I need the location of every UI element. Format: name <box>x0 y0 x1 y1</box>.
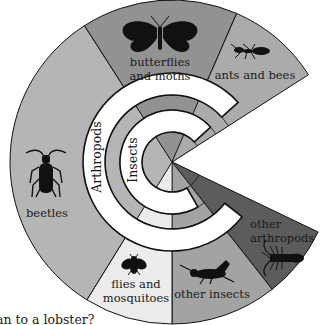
label-flies-line2: mosquitoes <box>103 291 170 305</box>
question-caption: an to a lobster? <box>0 312 94 325</box>
label-other-insects: other insects <box>174 287 250 301</box>
label-ants-and-bees: ants and bees <box>215 68 296 82</box>
arthropod-diagram: butterflies and moths ants and bees beet… <box>0 0 322 325</box>
label-other-arthropods-line2: arthropods <box>250 231 314 245</box>
label-flies-line1: flies and <box>111 277 161 291</box>
label-arthropods-band: Arthropods <box>89 121 104 194</box>
label-butterflies-line2: and moths <box>129 69 190 83</box>
label-beetles: beetles <box>26 206 68 220</box>
label-butterflies-line1: butterflies <box>130 55 190 69</box>
label-other-arthropods-line1: other <box>250 217 282 231</box>
label-insects-band: Insects <box>125 137 140 182</box>
